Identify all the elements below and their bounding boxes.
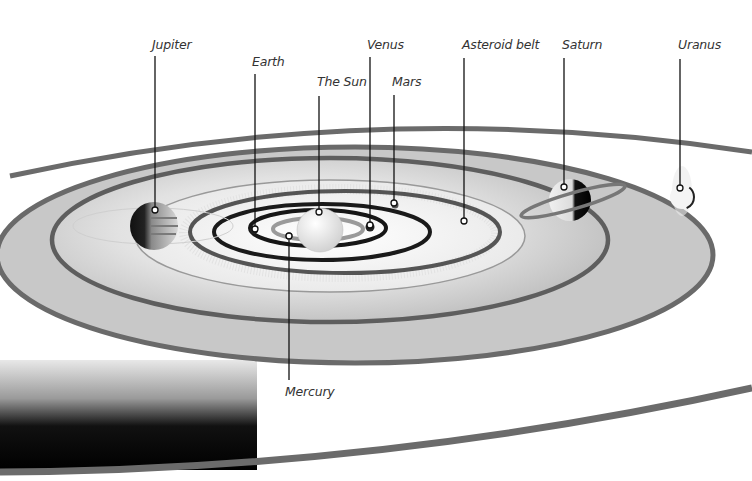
label-venus: Venus — [367, 37, 404, 52]
label-sun: The Sun — [317, 74, 367, 89]
label-mercury: Mercury — [285, 384, 335, 399]
label-jupiter: Jupiter — [152, 37, 191, 52]
label-uranus: Uranus — [678, 37, 721, 52]
label-asteroid-belt: Asteroid belt — [462, 37, 539, 52]
orbit-illustration — [0, 0, 752, 481]
label-mars: Mars — [392, 74, 421, 89]
label-earth: Earth — [252, 54, 285, 69]
shadow-block — [0, 360, 257, 470]
label-saturn: Saturn — [562, 37, 602, 52]
solar-system-diagram: Jupiter Earth The Sun Venus Mars Asteroi… — [0, 0, 752, 481]
